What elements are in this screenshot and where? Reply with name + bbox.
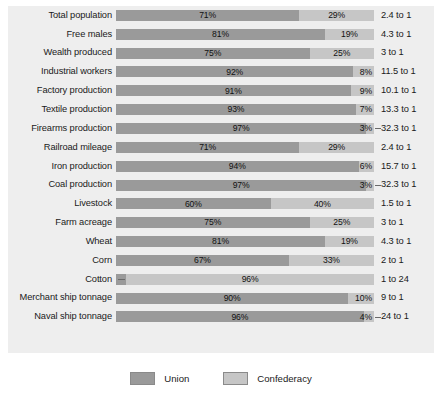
- ratio-label: 4.3 to 1: [374, 30, 411, 39]
- legend-label: Confederacy: [257, 374, 311, 384]
- row-label: Railroad mileage: [8, 143, 116, 152]
- union-segment: 4%: [116, 274, 126, 285]
- stacked-bar: 81%19%: [116, 29, 374, 40]
- legend-item: Confederacy: [223, 372, 311, 385]
- confederacy-value-label: 7%: [360, 105, 372, 114]
- confederacy-value-label: 29%: [328, 143, 345, 152]
- union-segment: 97%: [116, 123, 366, 134]
- union-value-label: 75%: [204, 49, 221, 58]
- confederacy-segment: 9%: [351, 85, 374, 96]
- chart-row: Merchant ship tonnage90%10%9 to 1: [8, 289, 434, 308]
- stacked-bar: 90%10%: [116, 293, 374, 304]
- union-value-label: 90%: [224, 294, 241, 303]
- chart-row: Wheat81%19%4.3 to 1: [8, 232, 434, 251]
- legend-label: Union: [164, 374, 189, 384]
- row-label: Wheat: [8, 237, 116, 246]
- row-label: Factory production: [8, 86, 116, 95]
- confederacy-value-label: 25%: [333, 49, 350, 58]
- ratio-label: 13.3 to 1: [374, 105, 416, 114]
- ratio-label: 9 to 1: [374, 293, 404, 302]
- union-value-label: 71%: [199, 11, 216, 20]
- stacked-bar: 71%29%: [116, 10, 374, 21]
- chart-row: Livestock60%40%1.5 to 1: [8, 194, 434, 213]
- chart-row: Railroad mileage71%29%2.4 to 1: [8, 138, 434, 157]
- ratio-label: 2 to 1: [374, 256, 404, 265]
- union-value-label: 97%: [233, 124, 250, 133]
- union-segment: 71%: [116, 10, 299, 21]
- row-label: Livestock: [8, 199, 116, 208]
- confederacy-segment: 96%: [126, 274, 374, 285]
- row-label: Farm acreage: [8, 218, 116, 227]
- union-segment: 71%: [116, 142, 299, 153]
- chart-row: Wealth produced75%25%3 to 1: [8, 44, 434, 63]
- stacked-bar: 67%33%: [116, 255, 374, 266]
- legend-swatch-icon: [223, 372, 248, 385]
- confederacy-value-label: 19%: [341, 237, 358, 246]
- row-label: Industrial workers: [8, 67, 116, 76]
- confederacy-segment: 19%: [325, 236, 374, 247]
- legend-item: Union: [130, 372, 189, 385]
- row-label: Iron production: [8, 162, 116, 171]
- row-label: Naval ship tonnage: [8, 312, 116, 321]
- chart-row: Cotton4%96%1 to 24: [8, 270, 434, 289]
- union-segment: 81%: [116, 29, 325, 40]
- union-value-label: 60%: [185, 200, 202, 209]
- chart-row: Free males81%19%4.3 to 1: [8, 25, 434, 44]
- chart-rows: Total population71%29%2.4 to 1Free males…: [8, 6, 434, 353]
- confederacy-segment: 25%: [310, 48, 375, 59]
- confederacy-segment: 4%: [364, 311, 374, 322]
- row-label: Corn: [8, 256, 116, 265]
- stacked-bar: 93%7%: [116, 104, 374, 115]
- row-label: Wealth produced: [8, 48, 116, 57]
- chart-row: Firearms production97%3%32.3 to 1: [8, 119, 434, 138]
- union-segment: 90%: [116, 293, 348, 304]
- ratio-label: 3 to 1: [374, 218, 404, 227]
- union-value-label: 93%: [228, 105, 245, 114]
- union-value-label: 67%: [194, 256, 211, 265]
- legend-swatch-icon: [130, 372, 155, 385]
- union-value-label: 75%: [204, 218, 221, 227]
- union-segment: 91%: [116, 85, 351, 96]
- value-leader-line: [375, 128, 381, 129]
- ratio-label: 15.7 to 1: [374, 162, 416, 171]
- ratio-label: 1 to 24: [374, 275, 409, 284]
- stacked-bar: 60%40%: [116, 198, 374, 209]
- chart-row: Textile production93%7%13.3 to 1: [8, 100, 434, 119]
- union-segment: 60%: [116, 198, 271, 209]
- union-value-label: 94%: [229, 162, 246, 171]
- ratio-label: 2.4 to 1: [374, 11, 411, 20]
- union-value-label: 97%: [233, 181, 250, 190]
- confederacy-value-label: 19%: [341, 30, 358, 39]
- row-label: Cotton: [8, 275, 116, 284]
- chart-row: Corn67%33%2 to 1: [8, 251, 434, 270]
- row-label: Total population: [8, 11, 116, 20]
- union-segment: 96%: [116, 311, 364, 322]
- confederacy-value-label: 10%: [355, 294, 372, 303]
- union-segment: 67%: [116, 255, 289, 266]
- union-segment: 75%: [116, 217, 310, 228]
- confederacy-segment: 29%: [299, 10, 374, 21]
- confederacy-segment: 33%: [289, 255, 374, 266]
- ratio-label: 1.5 to 1: [374, 199, 411, 208]
- ratio-label: 10.1 to 1: [374, 86, 416, 95]
- union-value-label: 91%: [225, 87, 242, 96]
- confederacy-segment: 25%: [310, 217, 375, 228]
- stacked-bar: 94%6%: [116, 161, 374, 172]
- stacked-bar: 71%29%: [116, 142, 374, 153]
- ratio-label: 11.5 to 1: [374, 67, 416, 76]
- chart-row: Naval ship tonnage96%4%24 to 1: [8, 308, 434, 327]
- value-leader-line: [375, 185, 381, 186]
- union-segment: 81%: [116, 236, 325, 247]
- value-leader-line: [118, 279, 125, 280]
- chart-row: Coal production97%3%32.3 to 1: [8, 176, 434, 195]
- confederacy-value-label: 6%: [360, 162, 372, 171]
- confederacy-value-label: 4%: [360, 313, 372, 322]
- chart-legend: UnionConfederacy: [0, 372, 442, 385]
- union-segment: 92%: [116, 66, 353, 77]
- resources-comparison-chart: Total population71%29%2.4 to 1Free males…: [0, 0, 442, 410]
- union-segment: 75%: [116, 48, 310, 59]
- confederacy-segment: 29%: [299, 142, 374, 153]
- confederacy-value-label: 3%: [360, 124, 372, 133]
- stacked-bar: 75%25%: [116, 217, 374, 228]
- union-value-label: 96%: [231, 313, 248, 322]
